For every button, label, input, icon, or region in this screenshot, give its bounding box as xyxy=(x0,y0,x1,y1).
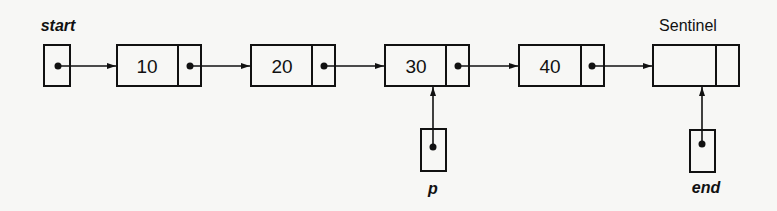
p-pointer: p xyxy=(421,87,446,197)
start-pointer: start xyxy=(41,17,116,86)
node-value: 20 xyxy=(271,56,292,77)
list-node-30: 30 xyxy=(385,45,518,86)
node-value: 40 xyxy=(539,56,560,77)
list-node-10: 10 xyxy=(117,45,250,86)
list-node-40: 40 xyxy=(519,45,652,86)
node-value: 30 xyxy=(405,56,426,77)
node-value: 10 xyxy=(136,56,157,77)
node-box xyxy=(653,45,739,86)
p-label: p xyxy=(427,180,438,197)
sentinel-node: Sentinel xyxy=(653,17,739,86)
start-label: start xyxy=(41,17,76,34)
end-pointer: end xyxy=(690,87,721,196)
end-label: end xyxy=(692,179,722,196)
list-node-20: 20 xyxy=(251,45,384,86)
sentinel-label: Sentinel xyxy=(659,17,717,34)
linked-list-diagram: start 10 20 30 40 Sentinel xyxy=(0,0,777,211)
